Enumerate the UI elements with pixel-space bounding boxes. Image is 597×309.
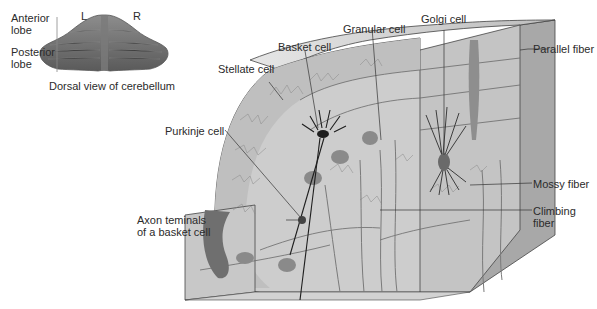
climbing-line-1: Climbing [533,205,576,217]
granular-cell-label: Granular cell [343,23,405,35]
anterior-line-2: lobe [11,24,50,36]
posterior-line-1: Posterior [11,46,55,58]
axon-line-1: Axon teminals [137,214,210,226]
axon-line-2: of a basket cell [137,226,210,238]
stellate-cell-label: Stellate cell [218,63,274,75]
inset-caption: Dorsal view of cerebellum [49,80,175,92]
posterior-line-2: lobe [11,58,55,70]
anterior-line-1: Anterior [11,12,50,24]
anterior-label: Anterior lobe [11,12,50,36]
posterior-label: Posterior lobe [11,46,55,70]
purkinje-cell-label: Purkinje cell [165,125,224,137]
golgi-cell-label: Golgi cell [421,13,466,25]
mossy-fiber-label: Mossy fiber [533,178,589,190]
right-label: R [133,10,141,22]
axon-terminals-label: Axon teminals of a basket cell [137,214,210,238]
dorsal-cerebellum-inset [40,15,168,72]
basket-cell-label: Basket cell [278,41,331,53]
parallel-fiber-label: Parallel fiber [533,43,594,55]
left-label: L [81,10,87,22]
climbing-line-2: fiber [533,217,576,229]
climbing-fiber-label: Climbing fiber [533,205,576,229]
